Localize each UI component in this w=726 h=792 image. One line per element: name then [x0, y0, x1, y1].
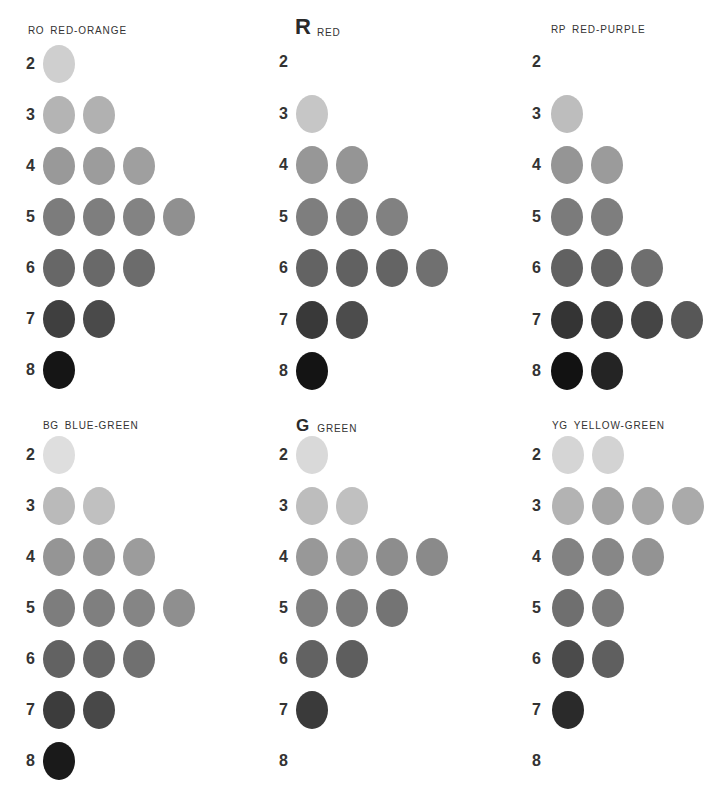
value-row-4: 4: [532, 537, 672, 577]
value-row-5: 5: [26, 197, 203, 237]
chroma-swatch: [552, 436, 584, 474]
chroma-swatch: [123, 640, 155, 678]
panel-title: R RED: [295, 16, 341, 38]
value-label: 6: [279, 650, 296, 668]
value-label: 6: [26, 259, 43, 277]
chroma-swatch: [591, 249, 623, 287]
value-label: 7: [279, 701, 296, 719]
chroma-swatch: [296, 640, 328, 678]
chroma-dots: [43, 691, 123, 729]
chroma-swatch: [416, 249, 448, 287]
chroma-swatch: [336, 640, 368, 678]
chroma-swatch: [43, 487, 75, 525]
value-row-5: 5: [279, 588, 416, 628]
value-label: 4: [532, 156, 551, 174]
chroma-swatch: [336, 301, 368, 339]
chroma-swatch: [591, 301, 623, 339]
chroma-swatch: [83, 147, 115, 185]
hue-code: G: [296, 417, 309, 434]
value-row-5: 5: [279, 197, 416, 237]
chroma-swatch: [416, 538, 448, 576]
value-label: 8: [279, 362, 296, 380]
chroma-dots: [552, 691, 592, 729]
value-label: 2: [26, 446, 43, 464]
chroma-swatch: [551, 301, 583, 339]
chroma-dots: [43, 96, 123, 134]
value-label: 2: [532, 446, 552, 464]
chroma-swatch: [632, 538, 664, 576]
value-label: 5: [26, 599, 43, 617]
value-label: 8: [532, 362, 551, 380]
value-row-7: 7: [279, 300, 376, 340]
value-row-5: 5: [532, 197, 631, 237]
chroma-swatch: [551, 95, 583, 133]
chroma-swatch: [296, 301, 328, 339]
value-row-2: 2: [26, 44, 83, 84]
value-row-4: 4: [279, 145, 376, 185]
chroma-swatch: [552, 589, 584, 627]
chroma-dots: [551, 301, 711, 339]
chroma-swatch: [43, 742, 75, 780]
chroma-swatch: [552, 640, 584, 678]
hue-code: RP: [551, 25, 566, 35]
chroma-dots: [551, 95, 591, 133]
value-label: 4: [532, 548, 552, 566]
value-row-4: 4: [26, 537, 163, 577]
chroma-swatch: [296, 352, 328, 390]
panel-red-purple: RP RED-PURPLE 2345678: [532, 0, 726, 400]
chroma-swatch: [43, 96, 75, 134]
value-row-8: 8: [532, 741, 552, 781]
value-label: 3: [279, 105, 296, 123]
chroma-swatch: [296, 538, 328, 576]
chroma-dots: [43, 300, 123, 338]
chroma-dots: [296, 589, 416, 627]
chroma-swatch: [83, 96, 115, 134]
hue-code: R: [295, 16, 311, 38]
value-row-4: 4: [279, 537, 456, 577]
chroma-swatch: [551, 146, 583, 184]
chroma-dots: [43, 45, 83, 83]
chroma-swatch: [123, 538, 155, 576]
chroma-dots: [552, 589, 632, 627]
chroma-swatch: [296, 249, 328, 287]
chroma-swatch: [591, 198, 623, 236]
value-row-3: 3: [26, 95, 123, 135]
panel-title: RP RED-PURPLE: [551, 25, 646, 35]
value-row-5: 5: [532, 588, 632, 628]
value-row-2: 2: [279, 42, 296, 82]
value-row-7: 7: [26, 299, 123, 339]
value-label: 3: [532, 105, 551, 123]
chroma-swatch: [592, 436, 624, 474]
value-label: 7: [532, 701, 552, 719]
chroma-swatch: [296, 146, 328, 184]
value-label: 5: [279, 599, 296, 617]
chroma-swatch: [123, 249, 155, 287]
value-label: 5: [279, 208, 296, 226]
chroma-swatch: [336, 538, 368, 576]
hue-name: GREEN: [317, 424, 357, 434]
chroma-dots: [552, 640, 632, 678]
chroma-swatch: [83, 300, 115, 338]
chroma-swatch: [123, 147, 155, 185]
chroma-dots: [551, 146, 631, 184]
value-row-7: 7: [532, 300, 711, 340]
panel-blue-green: BG BLUE-GREEN 2345678: [26, 395, 266, 792]
chroma-swatch: [163, 589, 195, 627]
chroma-dots: [296, 301, 376, 339]
chroma-swatch: [336, 487, 368, 525]
value-row-4: 4: [532, 145, 631, 185]
chroma-swatch: [43, 300, 75, 338]
value-label: 2: [26, 55, 43, 73]
value-row-3: 3: [532, 486, 712, 526]
value-label: 4: [279, 548, 296, 566]
chroma-swatch: [83, 589, 115, 627]
chroma-dots: [43, 640, 163, 678]
value-label: 6: [532, 650, 552, 668]
value-row-3: 3: [279, 486, 376, 526]
chroma-dots: [43, 249, 163, 287]
value-row-6: 6: [532, 248, 671, 288]
value-row-6: 6: [26, 248, 163, 288]
panel-title: YG YELLOW-GREEN: [552, 421, 665, 431]
chroma-dots: [296, 487, 376, 525]
chroma-dots: [296, 436, 336, 474]
